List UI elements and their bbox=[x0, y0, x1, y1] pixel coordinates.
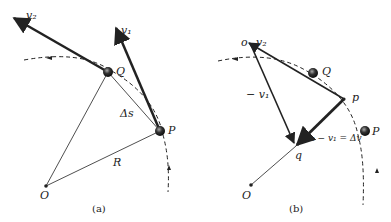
chord-QP bbox=[108, 72, 160, 131]
label-v2-a: v₂ bbox=[26, 9, 37, 22]
particle-P-a bbox=[155, 126, 165, 136]
caption-a: (a) bbox=[92, 203, 106, 214]
label-Q-a: Q bbox=[116, 65, 125, 78]
label-R: R bbox=[112, 156, 121, 169]
radius-OP bbox=[46, 131, 160, 186]
label-O-a: O bbox=[40, 189, 49, 202]
label-q: q bbox=[295, 149, 302, 162]
center-O-b bbox=[249, 183, 253, 187]
label-o: o bbox=[241, 36, 248, 49]
label-delta-s: Δs bbox=[119, 107, 134, 120]
particle-Q-b bbox=[308, 68, 318, 78]
particle-P-b bbox=[360, 126, 370, 136]
center-O-a bbox=[44, 184, 48, 188]
label-Q-b: Q bbox=[322, 65, 331, 78]
label-P-b: P bbox=[371, 125, 380, 138]
label-v2-b: v₂ bbox=[256, 36, 267, 49]
caption-b: (b) bbox=[289, 203, 303, 214]
label-P-a: P bbox=[167, 124, 176, 137]
direction-arrow-right-b-icon bbox=[375, 168, 379, 173]
panel-b: o v₂ Q p − v₁ v₂ − v₁ = Δv P q O (b) bbox=[218, 36, 380, 214]
vector-v2-a bbox=[14, 18, 108, 72]
particle-Q-a bbox=[103, 67, 113, 77]
circular-path-b bbox=[218, 57, 363, 205]
label-p: p bbox=[352, 91, 359, 104]
radius-OQ bbox=[46, 72, 108, 186]
diagram-canvas: v₂ v₁ Q P Δs R O (a) o v₂ Q p − v₁ v₂ − … bbox=[0, 0, 391, 222]
circular-path-a bbox=[24, 57, 168, 192]
point-p bbox=[342, 97, 345, 100]
radius-Oq bbox=[251, 146, 296, 185]
label-O-b: O bbox=[242, 189, 251, 202]
label-delta-v: v₂ − v₁ = Δv bbox=[306, 133, 362, 143]
label-neg-v1: − v₁ bbox=[246, 88, 269, 101]
direction-arrow-top-b-icon bbox=[232, 57, 238, 61]
label-v1-a: v₁ bbox=[121, 24, 132, 37]
panel-a: v₂ v₁ Q P Δs R O (a) bbox=[14, 9, 176, 214]
